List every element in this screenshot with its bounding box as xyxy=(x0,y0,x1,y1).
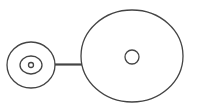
diagram-canvas xyxy=(0,0,201,112)
